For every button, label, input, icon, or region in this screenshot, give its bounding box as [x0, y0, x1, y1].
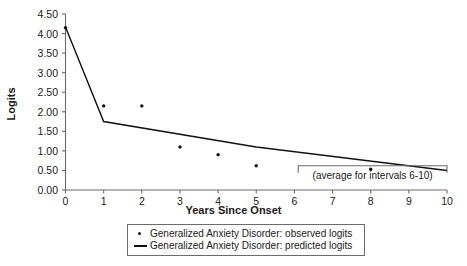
y-tick-label: 3.00 [20, 68, 58, 79]
y-tick-label: 3.50 [20, 48, 58, 59]
y-tick-label: 0.00 [20, 185, 58, 196]
x-axis-title: Years Since Onset [0, 204, 467, 216]
dot-marker-icon [132, 228, 150, 240]
legend-item-predicted: Generalized Anxiety Disorder: predicted … [132, 240, 360, 252]
x-axis-title-text: Years Since Onset [186, 204, 282, 216]
legend-label-predicted: Generalized Anxiety Disorder: predicted … [150, 240, 352, 252]
average-interval-annotation: (average for intervals 6-10) [298, 170, 447, 181]
y-tick-label: 2.00 [20, 107, 58, 118]
y-tick-label: 4.00 [20, 29, 58, 40]
y-tick-label: 1.50 [20, 126, 58, 137]
y-tick-label: 4.50 [20, 9, 58, 20]
y-tick-label: 0.50 [20, 165, 58, 176]
observed-logits-point [255, 164, 258, 167]
y-tick-label: 2.50 [20, 87, 58, 98]
y-tick-label: 1.00 [20, 146, 58, 157]
legend-label-observed: Generalized Anxiety Disorder: observed l… [150, 228, 352, 240]
legend-item-observed: Generalized Anxiety Disorder: observed l… [132, 228, 360, 240]
chart-legend: Generalized Anxiety Disorder: observed l… [127, 224, 365, 256]
chart-figure: Logits 0.000.501.001.502.002.503.003.504… [0, 0, 467, 266]
observed-logits-point [102, 104, 105, 107]
observed-logits-point [216, 153, 219, 156]
observed-logits-point [140, 104, 143, 107]
observed-logits-point [178, 145, 181, 148]
predicted-logits-line [66, 27, 448, 171]
line-marker-icon [132, 240, 150, 252]
